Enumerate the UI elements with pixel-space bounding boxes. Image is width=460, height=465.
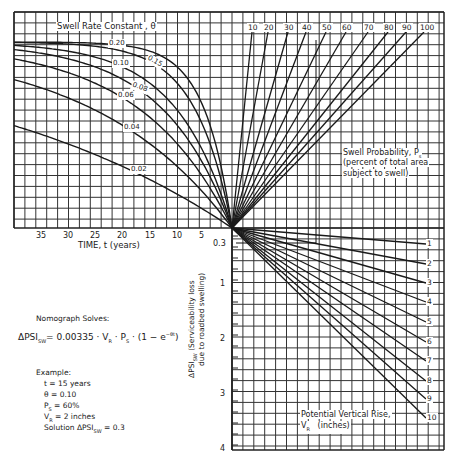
- ex-sol-sub: SW: [94, 428, 102, 434]
- ps-tick-70: 70: [363, 23, 375, 32]
- eq-close: ): [175, 332, 179, 342]
- time-tick-15: 15: [145, 231, 155, 240]
- theta-label-006: 0.06: [117, 91, 135, 100]
- example-solution: Solution ΔPSISW = 0.3: [44, 423, 125, 436]
- eq-psi-sub: SW: [38, 338, 46, 344]
- vr-tick-8: 8: [426, 376, 433, 385]
- vr-tick-9: 9: [426, 394, 433, 403]
- vr-tick-7: 7: [426, 356, 433, 365]
- swell-probability-subtitle-2: subject to swell): [342, 169, 409, 178]
- ex-sol: Solution ΔPSI: [44, 423, 94, 432]
- theta-label-020: 0.20: [108, 39, 126, 48]
- ex-vr-val: = 2 inches: [53, 412, 95, 421]
- theta-label-010: 0.10: [112, 59, 130, 68]
- ps-title-text: Swell Probability, P: [343, 148, 419, 157]
- ps-tick-50: 50: [321, 23, 333, 32]
- nomograph: Swell Rate Constant , θ 0.20 0.15 0.10 0…: [0, 0, 460, 465]
- psi-tick-4: 4: [220, 444, 225, 453]
- formula-heading: Nomograph Solves:: [36, 314, 109, 323]
- vr-tick-4: 4: [426, 297, 433, 306]
- vr-tick-6: 6: [426, 337, 433, 346]
- formula-equation: ΔPSISW= 0.00335 · VR · PS · (1 − e−θt): [18, 330, 178, 346]
- psi-tick-0.3: 0.3: [213, 239, 226, 248]
- ex-sol-val: = 0.3: [102, 423, 125, 432]
- time-tick-30: 30: [63, 231, 73, 240]
- vr-sub: R: [306, 426, 309, 432]
- eq-exp: −θt: [166, 331, 175, 337]
- psi-label-line1: (Serviceability loss: [187, 280, 196, 351]
- vertical-rise-title: Potential Vertical Rise,: [300, 410, 392, 419]
- ps-tick-40: 40: [301, 23, 313, 32]
- example-t: t = 15 years: [44, 379, 91, 388]
- vr-tick-2: 2: [426, 259, 433, 268]
- eq-tail: · (1 − e: [129, 332, 166, 342]
- example-theta: θ = 0.10: [44, 390, 76, 399]
- time-tick-10: 10: [172, 231, 182, 240]
- vr-tick-1: 1: [426, 239, 433, 248]
- eq-rhs: = 0.00335 · V: [46, 332, 108, 342]
- psi-symbol: ΔPSI: [187, 361, 196, 378]
- vr-tick-3: 3: [426, 278, 433, 287]
- vr-units-text: (inches): [318, 421, 350, 430]
- eq-psi: ΔPSI: [18, 332, 38, 342]
- ps-tick-30: 30: [283, 23, 295, 32]
- theta-label-004: 0.04: [123, 123, 141, 132]
- ps-tick-60: 60: [341, 23, 353, 32]
- vr-tick-10: 10: [426, 413, 438, 422]
- vr-tick-5: 5: [426, 317, 433, 326]
- time-tick-35: 35: [36, 231, 46, 240]
- ps-tick-100: 100: [419, 23, 435, 32]
- ps-tick-10: 10: [247, 23, 259, 32]
- time-axis-label: TIME, t (years): [78, 241, 140, 250]
- psi-axis-label-2: due to roadbed swelling): [197, 273, 206, 366]
- example-heading: Example:: [36, 368, 71, 377]
- swell-rate-title: Swell Rate Constant , θ: [56, 22, 157, 31]
- psi-tick-2: 2: [220, 334, 225, 343]
- ps-tick-80: 80: [383, 23, 395, 32]
- eq-ps: · P: [112, 332, 126, 342]
- vertical-rise-units: VR (inches): [300, 421, 351, 434]
- psi-tick-3: 3: [220, 389, 225, 398]
- time-tick-20: 20: [117, 231, 127, 240]
- swell-probability-subtitle-1: (percent of total area: [342, 158, 429, 167]
- ps-tick-20: 20: [263, 23, 275, 32]
- ex-ps-val: = 60%: [52, 401, 80, 410]
- time-tick-25: 25: [90, 231, 100, 240]
- psi-tick-1: 1: [220, 279, 225, 288]
- time-tick-5: 5: [199, 231, 204, 240]
- theta-label-002: 0.02: [130, 165, 148, 174]
- ps-tick-90: 90: [401, 23, 413, 32]
